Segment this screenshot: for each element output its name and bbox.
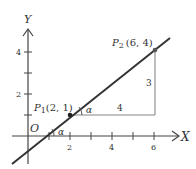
point-p1-dot xyxy=(68,113,73,118)
point-p2-label: P2(6, 4) xyxy=(111,37,153,50)
angle-label-x-axis: α xyxy=(58,127,64,137)
point-p1-label: P1(2, 1) xyxy=(33,102,73,115)
y-tick-label-4: 4 xyxy=(16,48,21,57)
rise-label: 3 xyxy=(146,78,152,88)
p1-coords: (2, 1) xyxy=(46,102,73,113)
slope-diagram: X Y 2 4 6 2 4 O 4 3 α α xyxy=(0,0,196,169)
p2-subscript: 2 xyxy=(119,41,124,50)
y-tick-label-2: 2 xyxy=(16,90,21,99)
point-p2-dot xyxy=(153,48,158,53)
angle-label-p1: α xyxy=(86,105,92,115)
origin-label: O xyxy=(30,122,39,135)
y-axis-label: Y xyxy=(24,13,33,26)
x-axis-label: X xyxy=(180,130,190,144)
x-tick-label-2: 2 xyxy=(67,143,72,152)
line-p1-p2 xyxy=(12,38,170,164)
run-label: 4 xyxy=(117,103,123,113)
x-tick-label-4: 4 xyxy=(109,143,114,152)
x-tick-label-6: 6 xyxy=(151,143,156,152)
y-axis: Y xyxy=(23,13,33,164)
p2-coords: (6, 4) xyxy=(126,37,153,48)
